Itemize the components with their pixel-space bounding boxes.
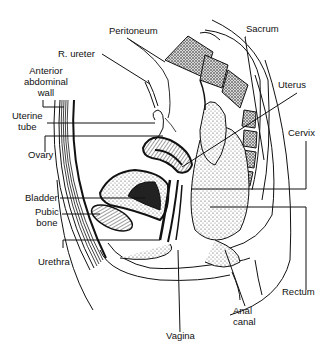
label-line: bone <box>35 217 59 228</box>
label-line: Pubic <box>35 206 59 217</box>
label-line: Anal <box>233 305 256 316</box>
label-uterus: Uterus <box>278 79 306 90</box>
label-uterine-tube: Uterine tube <box>12 110 43 132</box>
label-line: Anterior <box>24 65 68 76</box>
label-peritoneum: Peritoneum <box>109 25 158 36</box>
label-urethra: Urethra <box>38 256 70 267</box>
label-line: tube <box>12 121 43 132</box>
label-line: wall <box>24 87 68 98</box>
pelvis-anatomy-illustration <box>0 0 331 356</box>
leader-lines <box>43 37 306 332</box>
label-line: canal <box>233 316 256 327</box>
label-vagina: Vagina <box>166 330 195 341</box>
label-bladder: Bladder <box>25 192 58 203</box>
label-sacrum: Sacrum <box>246 23 279 34</box>
label-anterior-abdominal-wall: Anterior abdominal wall <box>24 65 68 98</box>
perineum-shape <box>100 240 262 300</box>
label-anal-canal: Anal canal <box>233 305 256 327</box>
label-r-ureter: R. ureter <box>58 48 95 59</box>
label-line: Uterine <box>12 110 43 121</box>
uterus-shape <box>143 137 192 172</box>
label-ovary: Ovary <box>28 149 53 160</box>
label-pubic-bone: Pubic bone <box>35 206 59 228</box>
label-cervix: Cervix <box>288 127 315 138</box>
label-line: abdominal <box>24 76 68 87</box>
label-rectum: Rectum <box>282 286 315 297</box>
